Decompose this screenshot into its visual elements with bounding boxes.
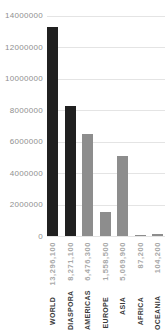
gridline <box>47 236 165 237</box>
bar-oceania <box>152 234 163 236</box>
y-tick-label: 12000000 <box>0 42 43 53</box>
x-category-label: EUROPE1,558,500 <box>100 242 111 330</box>
y-tick-label: 8000000 <box>0 105 43 116</box>
x-category-value: 87,200 <box>136 242 145 297</box>
x-category-label: ASIA5,069,900 <box>117 242 128 330</box>
bar-africa <box>135 235 146 237</box>
x-category-name: WORLD <box>49 297 56 330</box>
bar-europe <box>100 212 111 236</box>
gridline <box>47 47 165 48</box>
gridline <box>47 79 165 80</box>
x-category-label: DIASPORA8,271,100 <box>65 242 76 330</box>
x-category-name: ASIA <box>119 297 126 330</box>
bar-chart: 0200000040000006000000800000010000000120… <box>0 0 167 335</box>
y-tick-label: 14000000 <box>0 10 43 21</box>
x-category-name: OCEANIA <box>154 297 161 330</box>
x-category-value: 5,069,900 <box>118 242 127 297</box>
y-tick-label: 6000000 <box>0 136 43 147</box>
x-category-label: AFRICA87,200 <box>135 242 146 330</box>
x-category-name: AMERICAS <box>84 297 91 330</box>
x-category-value: 104,200 <box>153 242 162 297</box>
x-category-value: 8,271,100 <box>66 242 75 297</box>
y-tick-label: 2000000 <box>0 199 43 210</box>
x-category-name: EUROPE <box>102 297 109 330</box>
x-category-name: DIASPORA <box>67 297 74 330</box>
x-category-value: 6,476,300 <box>83 242 92 297</box>
x-category-label: WORLD13,296,100 <box>47 242 58 330</box>
bar-diaspora <box>65 106 76 236</box>
bar-americas <box>82 134 93 236</box>
x-category-name: AFRICA <box>137 297 144 330</box>
y-tick-label: 10000000 <box>0 73 43 84</box>
bar-asia <box>117 156 128 236</box>
gridline <box>47 16 165 17</box>
bar-world <box>47 27 58 236</box>
x-category-label: OCEANIA104,200 <box>152 242 163 330</box>
x-category-label: AMERICAS6,476,300 <box>82 242 93 330</box>
y-tick-label: 4000000 <box>0 168 43 179</box>
x-category-value: 13,296,100 <box>48 242 57 297</box>
y-tick-label: 0 <box>0 231 43 242</box>
x-category-value: 1,558,500 <box>101 242 110 297</box>
